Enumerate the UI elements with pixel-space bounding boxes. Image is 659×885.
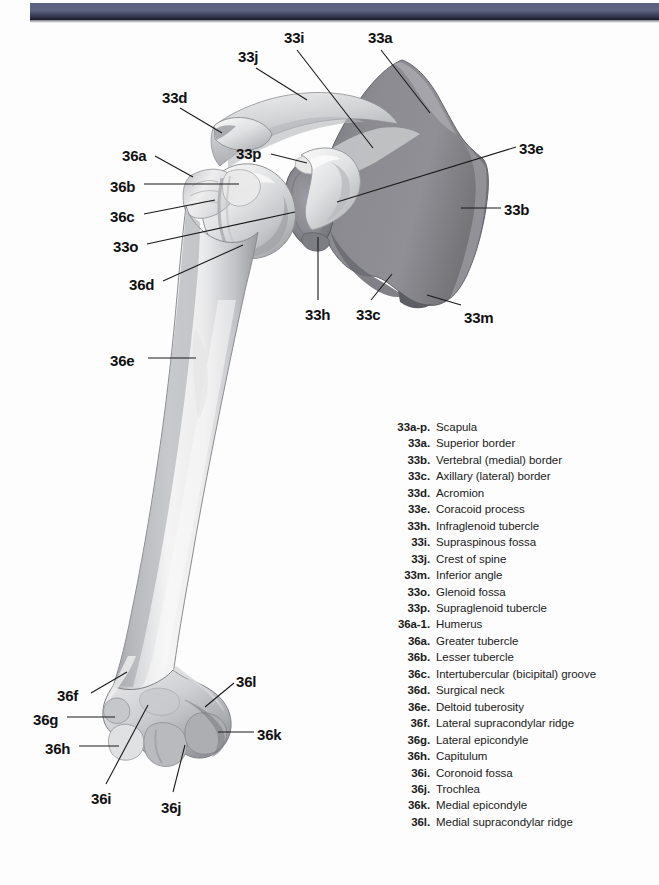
- legend-item: 33a-p. Scapula: [378, 419, 653, 435]
- legend-item: 33j. Crest of spine: [378, 551, 653, 567]
- legend-code: 33a-p.: [378, 419, 436, 435]
- leader-33d: [180, 108, 222, 133]
- callout-33d: 33d: [162, 90, 187, 105]
- legend-code: 36a-1.: [378, 616, 436, 632]
- callout-33b: 33b: [504, 202, 529, 217]
- legend-term: Medial epicondyle: [436, 797, 653, 813]
- callout-36l: 36l: [236, 674, 256, 689]
- legend-item: 33o. Glenoid fossa: [378, 584, 653, 600]
- callout-33j: 33j: [238, 49, 258, 64]
- legend-term: Greater tubercle: [436, 633, 653, 649]
- legend-term: Axillary (lateral) border: [436, 468, 653, 484]
- legend-term: Supraspinous fossa: [436, 534, 653, 550]
- legend-item: 36h. Capitulum: [378, 748, 653, 764]
- legend-item: 33d. Acromion: [378, 485, 653, 501]
- legend-term: Lateral epicondyle: [436, 732, 653, 748]
- legend-item: 36c. Intertubercular (bicipital) groove: [378, 666, 653, 682]
- callout-36e: 36e: [110, 353, 134, 368]
- callout-36c: 36c: [110, 209, 134, 224]
- legend-term: Capitulum: [436, 748, 653, 764]
- callout-36a: 36a: [122, 148, 146, 163]
- callout-36g: 36g: [33, 712, 58, 727]
- legend-term: Superior border: [436, 435, 653, 451]
- callout-33c: 33c: [356, 307, 380, 322]
- legend-item: 36l. Medial supracondylar ridge: [378, 814, 653, 830]
- legend-item: 36b. Lesser tubercle: [378, 649, 653, 665]
- figure-page: 33i 33a 33j 33d 33e 33p 36a 36b 33b 36c …: [0, 0, 659, 885]
- legend-term: Acromion: [436, 485, 653, 501]
- legend-term: Deltoid tuberosity: [436, 699, 653, 715]
- callout-36d: 36d: [129, 277, 154, 292]
- legend-item: 33i. Supraspinous fossa: [378, 534, 653, 550]
- legend-term: Inferior angle: [436, 567, 653, 583]
- callout-36f: 36f: [57, 688, 78, 703]
- legend-code: 36h.: [378, 748, 436, 764]
- legend-code: 36k.: [378, 797, 436, 813]
- legend-term: Medial supracondylar ridge: [436, 814, 653, 830]
- legend-code: 36e.: [378, 699, 436, 715]
- callout-36b: 36b: [110, 179, 135, 194]
- capitulum: [108, 724, 144, 760]
- legend-item: 36i. Coronoid fossa: [378, 765, 653, 781]
- figure-legend: 33a-p. Scapula 33a. Superior border 33b.…: [378, 419, 653, 830]
- legend-code: 33h.: [378, 518, 436, 534]
- legend-item: 36e. Deltoid tuberosity: [378, 699, 653, 715]
- legend-item: 36g. Lateral epicondyle: [378, 732, 653, 748]
- legend-term: Scapula: [436, 419, 653, 435]
- legend-code: 33b.: [378, 452, 436, 468]
- legend-code: 33d.: [378, 485, 436, 501]
- legend-code: 33m.: [378, 567, 436, 583]
- legend-code: 36a.: [378, 633, 436, 649]
- legend-item: 36f. Lateral supracondylar ridge: [378, 715, 653, 731]
- legend-term: Lesser tubercle: [436, 649, 653, 665]
- legend-term: Surgical neck: [436, 682, 653, 698]
- callout-33a: 33a: [368, 30, 392, 45]
- legend-item: 36a-1. Humerus: [378, 616, 653, 632]
- legend-code: 33o.: [378, 584, 436, 600]
- callout-33i: 33i: [284, 30, 304, 45]
- legend-item: 33c. Axillary (lateral) border: [378, 468, 653, 484]
- callout-33m: 33m: [464, 310, 493, 325]
- callout-33p: 33p: [236, 146, 261, 161]
- callout-33e: 33e: [519, 141, 543, 156]
- legend-code: 36l.: [378, 814, 436, 830]
- legend-code: 33i.: [378, 534, 436, 550]
- legend-term: Vertebral (medial) border: [436, 452, 653, 468]
- leader-33j: [256, 68, 307, 100]
- legend-code: 36i.: [378, 765, 436, 781]
- legend-term: Humerus: [436, 616, 653, 632]
- legend-term: Supraglenoid tubercle: [436, 600, 653, 616]
- callout-33h: 33h: [305, 307, 330, 322]
- legend-code: 33a.: [378, 435, 436, 451]
- legend-term: Coronoid fossa: [436, 765, 653, 781]
- legend-term: Glenoid fossa: [436, 584, 653, 600]
- legend-term: Coracoid process: [436, 501, 653, 517]
- callout-33o: 33o: [113, 239, 138, 254]
- legend-code: 36g.: [378, 732, 436, 748]
- legend-term: Crest of spine: [436, 551, 653, 567]
- legend-item: 36j. Trochlea: [378, 781, 653, 797]
- legend-code: 36d.: [378, 682, 436, 698]
- legend-code: 36b.: [378, 649, 436, 665]
- legend-item: 33b. Vertebral (medial) border: [378, 452, 653, 468]
- legend-term: Intertubercular (bicipital) groove: [436, 666, 653, 682]
- legend-code: 36c.: [378, 666, 436, 682]
- legend-item: 36a. Greater tubercle: [378, 633, 653, 649]
- legend-item: 36d. Surgical neck: [378, 682, 653, 698]
- lateral-epicondyle: [104, 698, 130, 723]
- legend-code: 33c.: [378, 468, 436, 484]
- callout-36i: 36i: [91, 791, 111, 806]
- callout-36h: 36h: [45, 741, 70, 756]
- legend-code: 33e.: [378, 501, 436, 517]
- legend-code: 33j.: [378, 551, 436, 567]
- legend-item: 33h. Infraglenoid tubercle: [378, 518, 653, 534]
- legend-code: 36j.: [378, 781, 436, 797]
- callout-36j: 36j: [161, 800, 181, 815]
- trochlea: [144, 723, 187, 767]
- legend-item: 36k. Medial epicondyle: [378, 797, 653, 813]
- legend-code: 36f.: [378, 715, 436, 731]
- legend-code: 33p.: [378, 600, 436, 616]
- legend-item: 33a. Superior border: [378, 435, 653, 451]
- legend-item: 33m. Inferior angle: [378, 567, 653, 583]
- legend-term: Infraglenoid tubercle: [436, 518, 653, 534]
